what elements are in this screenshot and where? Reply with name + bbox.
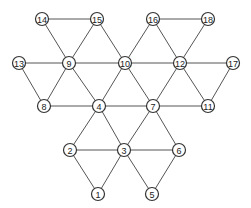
- node-label: 12: [175, 59, 185, 69]
- node-7: 7: [147, 100, 160, 113]
- edge-15-10: [97, 19, 125, 63]
- edge-12-11: [180, 63, 208, 106]
- node-2: 2: [64, 144, 77, 157]
- node-label: 16: [148, 15, 158, 25]
- node-label: 10: [120, 59, 130, 69]
- node-label: 13: [14, 59, 24, 69]
- node-15: 15: [91, 13, 104, 26]
- node-5: 5: [146, 188, 159, 201]
- edge-12-7: [153, 63, 180, 106]
- node-label: 18: [203, 15, 213, 25]
- edge-9-4: [69, 63, 99, 106]
- node-label: 2: [67, 146, 72, 156]
- node-label: 8: [41, 102, 46, 112]
- edge-13-8: [19, 63, 44, 106]
- node-label: 7: [150, 102, 155, 112]
- edge-18-12: [180, 19, 208, 63]
- graph-canvas: 123456789101112131415161718: [0, 0, 251, 208]
- node-label: 11: [203, 102, 212, 112]
- node-label: 6: [176, 146, 181, 156]
- edge-17-11: [208, 63, 233, 106]
- node-label: 3: [121, 146, 126, 156]
- edge-4-2: [70, 106, 99, 150]
- node-17: 17: [227, 57, 240, 70]
- edge-10-4: [99, 63, 125, 106]
- edge-4-3: [99, 106, 124, 150]
- node-9: 9: [63, 57, 76, 70]
- edge-16-10: [125, 19, 153, 63]
- edge-10-7: [125, 63, 153, 106]
- node-label: 17: [228, 59, 238, 69]
- edge-15-9: [69, 19, 97, 63]
- node-8: 8: [38, 100, 51, 113]
- edge-2-1: [70, 150, 98, 194]
- node-11: 11: [202, 100, 215, 113]
- node-label: 4: [96, 102, 101, 112]
- edge-3-5: [124, 150, 152, 194]
- node-10: 10: [119, 57, 132, 70]
- edge-14-9: [42, 19, 69, 63]
- node-label: 9: [66, 59, 71, 69]
- node-label: 15: [92, 15, 102, 25]
- edge-7-3: [124, 106, 153, 150]
- edge-16-12: [153, 19, 180, 63]
- edges-layer: [19, 19, 233, 194]
- edge-9-8: [44, 63, 69, 106]
- node-1: 1: [92, 188, 105, 201]
- graph-diagram: 123456789101112131415161718: [0, 0, 251, 208]
- edge-6-5: [152, 150, 179, 194]
- edge-7-6: [153, 106, 179, 150]
- node-3: 3: [118, 144, 131, 157]
- node-13: 13: [13, 57, 26, 70]
- edge-3-1: [98, 150, 124, 194]
- node-18: 18: [202, 13, 215, 26]
- node-6: 6: [173, 144, 186, 157]
- node-16: 16: [147, 13, 160, 26]
- node-4: 4: [93, 100, 106, 113]
- node-label: 5: [149, 190, 154, 200]
- node-label: 1: [95, 190, 100, 200]
- node-label: 14: [37, 15, 47, 25]
- node-12: 12: [174, 57, 187, 70]
- node-14: 14: [36, 13, 49, 26]
